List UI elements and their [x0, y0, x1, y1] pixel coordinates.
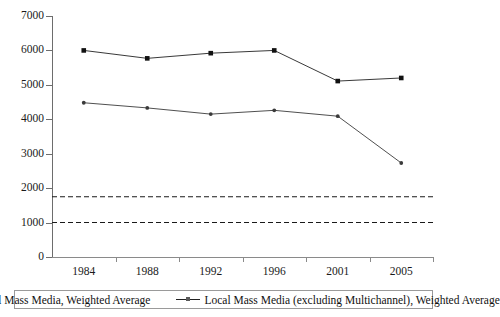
- x-tick: [306, 257, 307, 262]
- y-axis-tick-label: 3000: [0, 148, 44, 160]
- data-point: [82, 101, 86, 105]
- y-axis-tick-label-wrap: 1000: [0, 217, 44, 229]
- y-axis-tick-label: 1000: [0, 217, 44, 229]
- data-point: [335, 79, 340, 84]
- x-axis-tick-label: 1996: [244, 265, 304, 277]
- data-point: [209, 112, 213, 116]
- series-1: [81, 48, 403, 83]
- data-point: [272, 48, 277, 53]
- plot-svg: [52, 16, 433, 257]
- x-tick: [116, 257, 117, 262]
- x-tick: [179, 257, 180, 262]
- y-axis-tick-label: 5000: [0, 79, 44, 91]
- x-axis-tick-label: 2001: [308, 265, 368, 277]
- data-point: [208, 51, 213, 56]
- y-axis-tick-label-wrap: 7000: [0, 10, 44, 22]
- data-point: [145, 56, 150, 61]
- x-tick: [433, 257, 434, 262]
- x-axis-tick-label: 2005: [371, 265, 431, 277]
- data-point: [336, 114, 340, 118]
- data-point: [81, 48, 86, 53]
- x-axis-tick-label: 1988: [117, 265, 177, 277]
- legend-entry-1[interactable]: Local Mass Media, Weighted Average: [0, 294, 150, 306]
- y-axis-tick-label: 2000: [0, 182, 44, 194]
- legend-label: Local Mass Media (excluding Multichannel…: [204, 294, 499, 306]
- legend-marker-icon: [176, 295, 200, 304]
- y-axis-tick-label-wrap: 0: [0, 251, 44, 263]
- y-axis-tick-label-wrap: 5000: [0, 79, 44, 91]
- data-point: [399, 161, 403, 165]
- chart-legend: Local Mass Media, Weighted AverageLocal …: [14, 290, 433, 309]
- y-axis-tick-label-wrap: 3000: [0, 148, 44, 160]
- y-axis-tick-label: 4000: [0, 113, 44, 125]
- data-point: [145, 106, 149, 110]
- y-axis-tick-label-wrap: 4000: [0, 113, 44, 125]
- x-tick: [370, 257, 371, 262]
- y-axis-tick-label: 6000: [0, 44, 44, 56]
- x-tick: [243, 257, 244, 262]
- data-point: [399, 76, 404, 81]
- y-axis-tick-label-wrap: 2000: [0, 182, 44, 194]
- series-line: [84, 50, 402, 81]
- series-line: [84, 103, 402, 163]
- y-axis-tick-label: 7000: [0, 10, 44, 22]
- plot-area: [52, 16, 433, 257]
- x-axis-tick-label: 1984: [54, 265, 114, 277]
- legend-point-icon: [186, 297, 190, 301]
- series-2: [82, 101, 403, 165]
- y-axis-tick-label-wrap: 6000: [0, 44, 44, 56]
- y-axis-tick-label: 0: [0, 251, 44, 263]
- legend-entry-2[interactable]: Local Mass Media (excluding Multichannel…: [176, 294, 499, 306]
- y-tick: [46, 257, 52, 258]
- x-axis-tick-label: 1992: [181, 265, 241, 277]
- data-point: [272, 108, 276, 112]
- legend-label: Local Mass Media, Weighted Average: [0, 294, 150, 306]
